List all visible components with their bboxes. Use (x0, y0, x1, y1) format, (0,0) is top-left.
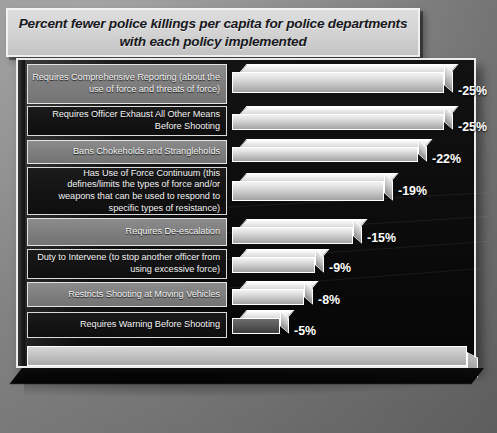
chart-row: Duty to Intervene (to stop another offic… (25, 249, 474, 279)
category-label: Restricts Shooting at Moving Vehicles (68, 289, 220, 301)
category-label-cell: Restricts Shooting at Moving Vehicles (27, 282, 227, 307)
category-label-cell: Requires Officer Exhaust All Other Means… (27, 106, 227, 136)
chart-image: Percent fewer police killings per capita… (0, 0, 497, 433)
category-label-cell: Requires Warning Before Shooting (27, 312, 227, 338)
chart-row: Requires Comprehensive Reporting (about … (25, 64, 474, 104)
bar-front-face (232, 257, 315, 273)
axis-baseline-slab (27, 346, 467, 366)
value-label: -8% (318, 293, 340, 307)
bar-front-face (232, 147, 418, 162)
plot-left-wall (18, 60, 25, 366)
bar-front-face (232, 72, 444, 93)
bar-front-face (232, 318, 280, 334)
category-label-cell: Requires De-escalation (27, 218, 227, 246)
chart-title-panel: Percent fewer police killings per capita… (6, 8, 420, 57)
category-label-cell: Bans Chokeholds and Strangleholds (27, 140, 227, 164)
category-label: Requires Comprehensive Reporting (about … (32, 72, 220, 95)
page-title: Percent fewer police killings per capita… (8, 15, 418, 50)
bar-front-face (232, 227, 353, 244)
bar-front-face (232, 114, 444, 130)
chart-row: Restricts Shooting at Moving Vehicles -8… (25, 282, 474, 307)
bar-front-face (232, 289, 304, 305)
frame-3d-base (9, 368, 484, 384)
category-label: Has Use of Force Continuum (this defines… (32, 168, 220, 214)
bar (232, 114, 444, 130)
chart-row: Requires Warning Before Shooting -5% (25, 312, 474, 338)
bar (232, 289, 304, 305)
category-label: Requires Officer Exhaust All Other Means… (32, 109, 220, 132)
plot-frame: Requires Comprehensive Reporting (about … (16, 58, 476, 368)
value-label: -19% (398, 184, 427, 198)
category-label: Requires De-escalation (126, 226, 220, 238)
bar (232, 227, 353, 244)
category-label: Requires Warning Before Shooting (80, 319, 220, 331)
category-label-cell: Has Use of Force Continuum (this defines… (27, 167, 227, 215)
bar (232, 147, 418, 162)
bar-front-face (232, 181, 384, 201)
bar (232, 318, 280, 334)
value-label: -5% (294, 324, 316, 338)
bar (232, 181, 384, 201)
chart-row: Has Use of Force Continuum (this defines… (25, 167, 474, 215)
category-label-cell: Requires Comprehensive Reporting (about … (27, 64, 227, 104)
value-label: -25% (458, 84, 487, 98)
category-label-cell: Duty to Intervene (to stop another offic… (27, 249, 227, 279)
chart-row: Bans Chokeholds and Strangleholds -22% (25, 140, 474, 164)
bar (232, 72, 444, 93)
value-label: -15% (367, 231, 396, 245)
chart-row: Requires Officer Exhaust All Other Means… (25, 106, 474, 136)
chart-row: Requires De-escalation -15% (25, 218, 474, 246)
value-label: -25% (458, 120, 487, 134)
bar-rows: Requires Comprehensive Reporting (about … (25, 60, 474, 366)
bar (232, 257, 315, 273)
category-label: Duty to Intervene (to stop another offic… (32, 252, 220, 275)
value-label: -9% (329, 261, 351, 275)
category-label: Bans Chokeholds and Strangleholds (73, 146, 220, 158)
value-label: -22% (432, 152, 461, 166)
